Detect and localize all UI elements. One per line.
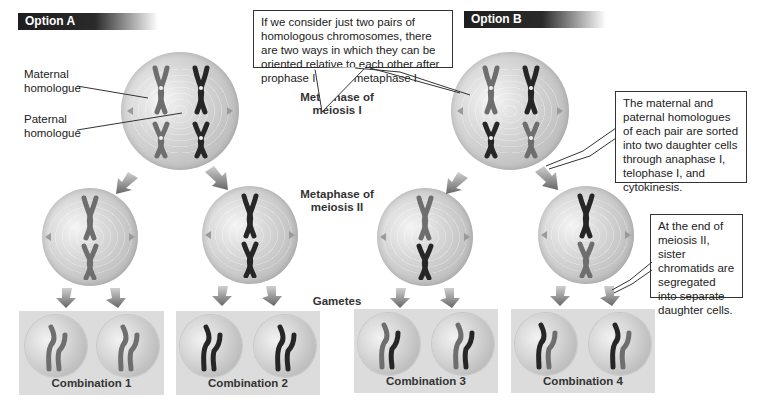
centriole-icon: [227, 107, 233, 115]
chromosome-pair-icon: [78, 194, 102, 280]
combination-3-label: Combination 3: [354, 375, 498, 387]
gamete-box-combination-4: Combination 4: [511, 309, 655, 393]
cell-metaphase2-2: [202, 186, 298, 284]
arrow-icon: [116, 172, 138, 194]
cell-metaphase1-option-a: [121, 52, 239, 170]
option-a-banner: Option A: [18, 13, 158, 30]
option-b-label: Option B: [471, 12, 522, 26]
stage-label-gametes: Gametes: [300, 295, 374, 308]
centriole-icon: [457, 107, 463, 115]
chromosome-group-icon: [473, 64, 549, 160]
callout-sorting: The maternal and paternal homologues of …: [615, 91, 747, 183]
combination-4-label: Combination 4: [511, 375, 655, 387]
combination-1-label: Combination 1: [19, 377, 164, 389]
centriole-icon: [557, 107, 563, 115]
callout-sister-chromatids: At the end of meiosis II, sister chromat…: [650, 214, 743, 298]
cell-metaphase2-1: [42, 188, 138, 286]
cell-metaphase1-option-b: [451, 52, 569, 170]
cell-metaphase2-4: [538, 186, 634, 284]
option-b-banner: Option B: [464, 11, 606, 28]
callout-orientation: If we consider just two pairs of homolog…: [253, 10, 453, 68]
paternal-homologue-label: Paternal homologue: [24, 112, 94, 140]
stage-label-metaphase-2: Metaphase of meiosis II: [290, 188, 384, 214]
chromosome-pair-icon: [574, 192, 598, 278]
chromosome-pair-icon: [238, 192, 262, 278]
chromosome-group-icon: [143, 64, 219, 160]
gamete-box-combination-3: Combination 3: [354, 309, 498, 393]
gamete-box-combination-1: Combination 1: [19, 311, 164, 395]
cell-metaphase2-3: [377, 188, 473, 286]
centriole-icon: [127, 107, 133, 115]
chromosome-pair-icon: [413, 194, 437, 280]
option-a-label: Option A: [25, 14, 75, 28]
maternal-homologue-label: Maternal homologue: [24, 67, 94, 95]
combination-2-label: Combination 2: [176, 377, 320, 389]
gamete-box-combination-2: Combination 2: [176, 311, 320, 395]
stage-label-metaphase-1: Metaphase of meiosis I: [292, 91, 382, 117]
